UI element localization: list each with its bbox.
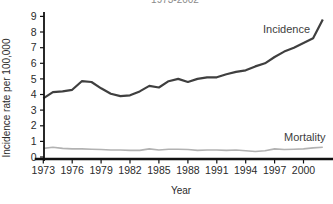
y-tick-label: 6: [31, 57, 37, 69]
y-tick-label: 9: [31, 10, 37, 22]
incidence-series-label: Incidence: [263, 23, 310, 35]
mortality-series-label: Mortality: [284, 131, 326, 143]
x-tick-label: 1994: [234, 164, 258, 176]
y-tick-label: 0: [31, 151, 37, 163]
x-axis-title: Year: [171, 185, 192, 196]
y-tick-label: 4: [31, 88, 37, 100]
y-axis-title: Incidence rate per 100,000: [1, 38, 12, 157]
x-tick-label: 1988: [176, 164, 200, 176]
chart-title-clipped: 1973-2002: [151, 0, 199, 5]
x-tick-label: 2000: [292, 164, 316, 176]
x-axis-ticks: 1973197619791982198519881991199419972000: [32, 159, 316, 176]
x-tick-label: 1985: [147, 164, 171, 176]
x-tick-label: 1982: [118, 164, 142, 176]
y-tick-label: 2: [31, 119, 37, 131]
mortality-line: [43, 147, 323, 151]
line-chart: 1973-2002 Incidence rate per 100,000 012…: [0, 0, 333, 204]
y-tick-label: 3: [31, 104, 37, 116]
chart-canvas: 1973-2002 Incidence rate per 100,000 012…: [0, 0, 333, 204]
x-tick-label: 1979: [89, 164, 113, 176]
y-tick-label: 7: [31, 41, 37, 53]
y-axis-ticks: 0123456789: [31, 10, 44, 163]
x-tick-label: 1976: [61, 164, 85, 176]
y-tick-label: 8: [31, 26, 37, 38]
y-tick-label: 1: [31, 135, 37, 147]
x-tick-label: 1997: [263, 164, 287, 176]
x-tick-label: 1991: [205, 164, 229, 176]
y-tick-label: 5: [31, 73, 37, 85]
x-tick-label: 1973: [32, 164, 56, 176]
